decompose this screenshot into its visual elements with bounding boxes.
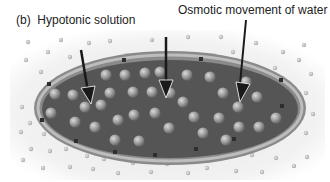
osmosis-annotation: Osmotic movement of water — [178, 3, 327, 17]
panel-letter: (b) — [16, 13, 31, 27]
cell-illustration — [0, 0, 330, 182]
hypotonic-solution-diagram: (b) Hypotonic solution Osmotic movement … — [0, 0, 330, 182]
solution-type-label: Hypotonic solution — [37, 13, 135, 27]
cell — [34, 51, 306, 165]
panel-title: (b) Hypotonic solution — [16, 13, 135, 27]
